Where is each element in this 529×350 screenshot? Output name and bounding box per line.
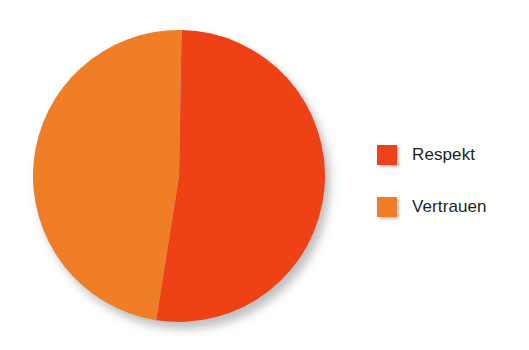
legend-item-vertrauen[interactable]: Vertrauen [377, 195, 517, 219]
pie-chart-figure: Respekt Vertrauen [0, 0, 529, 350]
legend-label-vertrauen: Vertrauen [412, 197, 487, 217]
chart-legend: Respekt Vertrauen [377, 143, 517, 247]
legend-swatch-respekt [377, 145, 397, 165]
legend-item-respekt[interactable]: Respekt [377, 143, 517, 167]
pie-slices-group [33, 30, 325, 322]
legend-swatch-vertrauen [377, 197, 397, 217]
legend-label-respekt: Respekt [412, 145, 475, 165]
pie-chart-area [20, 18, 350, 338]
pie-slice-respekt[interactable] [156, 30, 325, 322]
pie-slice-vertrauen[interactable] [33, 30, 182, 320]
pie-chart-svg [20, 18, 350, 338]
